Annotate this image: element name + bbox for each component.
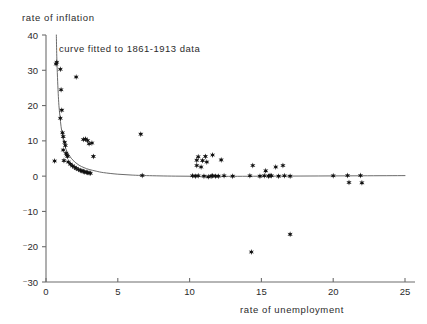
y-tick-label: ⁻10 [22,206,38,217]
y-axis: ⁻30⁻20⁻10010203040 [22,30,46,288]
x-axis-title: rate of unemployment [240,304,344,315]
x-tick-label: 15 [256,286,267,297]
data-point-marker [74,74,79,80]
x-tick-label: 20 [328,286,339,297]
data-point-marker [203,153,208,159]
data-point-marker [58,115,63,121]
data-point-marker [58,87,63,93]
fitted-curve-path [56,35,405,176]
data-points [52,59,365,255]
data-point-marker [221,173,226,179]
y-axis-title: rate of inflation [22,12,95,23]
data-point-marker [273,164,278,170]
phillips-curve-chart: rate of inflation rate of unemployment c… [0,0,427,324]
data-point-marker [138,131,143,137]
chart-canvas: rate of inflation rate of unemployment c… [0,0,427,324]
y-tick-label: 30 [27,65,38,76]
fitted-curve [56,35,405,176]
y-tick-label: ⁻20 [22,241,38,252]
y-tick-label: 0 [33,171,38,182]
data-point-marker [263,168,268,174]
data-point-marker [58,66,63,72]
data-point-marker [91,153,96,159]
data-point-marker [346,179,351,185]
data-point-marker [247,173,252,179]
x-axis: 0510152025 [43,278,415,297]
x-tick-label: 25 [400,286,411,297]
y-tick-label: ⁻30 [22,277,38,288]
data-point-marker [210,152,215,158]
data-point-marker [249,249,254,255]
data-point-marker [61,134,66,140]
y-tick-label: 20 [27,100,38,111]
data-point-marker [359,180,364,186]
data-point-marker [60,130,65,136]
x-tick-label: 0 [43,286,48,297]
y-tick-label: 40 [27,30,38,41]
y-tick-label: 10 [27,135,38,146]
x-tick-label: 10 [184,286,195,297]
x-tick-label: 5 [115,286,120,297]
data-point-marker [280,163,285,169]
data-point-marker [52,158,57,164]
fitted-curve-annotation: curve fitted to 1861-1913 data [59,43,200,54]
data-point-marker [250,163,255,169]
data-point-marker [288,231,293,237]
data-point-marker [219,157,224,163]
